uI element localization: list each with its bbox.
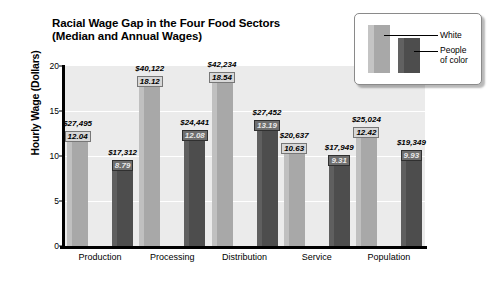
y-tick-label: 15 [50, 106, 59, 116]
chart-title: Racial Wage Gap in the Four Food Sectors… [52, 17, 352, 43]
bar-highlight-edge [212, 79, 217, 246]
legend-leader-line-poc [414, 51, 438, 52]
bar-processing-poc [184, 137, 205, 246]
y-tick-label: 20 [50, 61, 59, 71]
bar-highlight-edge [139, 83, 144, 246]
legend-leader-line-white [384, 35, 438, 36]
x-tick-label-population: Population [344, 252, 434, 262]
y-axis-title: Hourly Wage (Dollars) [29, 23, 41, 183]
legend-swatch-white-highlight [368, 25, 374, 73]
bar-highlight-edge [284, 150, 289, 246]
bar-highlight-edge [356, 134, 361, 246]
bar-population-white [356, 134, 377, 246]
bar-highlight-edge [184, 137, 189, 246]
bar-highlight-edge [112, 167, 117, 246]
bars-layer [64, 66, 425, 246]
bar-distribution-white [212, 79, 233, 246]
bar-highlight-edge [329, 162, 334, 246]
x-axis-line [60, 246, 427, 249]
legend-label-poc: People of color [440, 45, 468, 65]
plot-area: 05101520 [64, 66, 425, 246]
bar-highlight-edge [67, 138, 72, 246]
bar-service-poc [329, 162, 350, 246]
chart-title-line2: (Median and Annual Wages) [52, 30, 352, 43]
bar-production-white [67, 138, 88, 246]
legend: White People of color [354, 13, 482, 85]
legend-swatch-white [368, 25, 390, 73]
y-tick-label: 10 [50, 151, 59, 161]
bar-service-white [284, 150, 305, 246]
bar-highlight-edge [257, 127, 262, 246]
chart-container: Racial Wage Gap in the Four Food Sectors… [0, 0, 489, 288]
legend-label-white: White [440, 30, 462, 40]
bar-population-poc [401, 157, 422, 246]
bar-highlight-edge [401, 157, 406, 246]
legend-swatch-poc [398, 38, 420, 73]
chart-title-line1: Racial Wage Gap in the Four Food Sectors [52, 17, 280, 29]
legend-swatch-poc-highlight [398, 38, 404, 73]
bar-production-poc [112, 167, 133, 246]
bar-distribution-poc [257, 127, 278, 246]
bar-processing-white [139, 83, 160, 246]
